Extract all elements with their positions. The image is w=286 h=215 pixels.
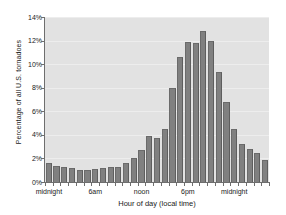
x-tick-mark: [261, 183, 262, 186]
y-tick-label: 10%: [2, 61, 42, 68]
x-tick-label: 6am: [88, 188, 102, 196]
x-tick-mark: [84, 183, 85, 186]
gridline: [45, 64, 269, 65]
bar: [53, 166, 59, 183]
bar: [92, 169, 98, 182]
y-tick-label: 0%: [2, 179, 42, 186]
bar: [146, 136, 152, 182]
x-tick-mark: [161, 183, 162, 186]
x-tick-mark: [169, 183, 170, 186]
x-tick-mark: [122, 183, 123, 186]
y-tick-label: 2%: [2, 155, 42, 162]
bar: [138, 150, 144, 182]
y-tick-mark: [41, 17, 45, 18]
y-tick-label: 12%: [2, 37, 42, 44]
y-tick-label: 14%: [2, 14, 42, 21]
bar: [247, 149, 253, 182]
x-tick-mark: [99, 183, 100, 186]
x-tick-label: 6pm: [181, 188, 195, 196]
x-tick-mark: [254, 183, 255, 186]
x-tick-mark: [153, 183, 154, 186]
x-axis-title: Hour of day (local time): [45, 199, 269, 208]
x-tick-mark: [207, 183, 208, 186]
bar: [108, 167, 114, 182]
bar: [115, 167, 121, 182]
x-tick-mark: [223, 183, 224, 186]
x-tick-mark: [176, 183, 177, 186]
gridline: [45, 41, 269, 42]
x-tick-mark: [68, 183, 69, 186]
x-tick-mark: [184, 183, 185, 186]
y-tick-label: 8%: [2, 84, 42, 91]
bar: [77, 170, 83, 182]
bar: [131, 158, 137, 182]
x-tick-mark: [91, 183, 92, 186]
bar: [61, 167, 67, 182]
y-tick-mark: [41, 111, 45, 112]
bar: [223, 102, 229, 182]
x-tick-mark: [192, 183, 193, 186]
x-tick-mark: [215, 183, 216, 186]
y-tick-mark: [41, 88, 45, 89]
x-tick-mark: [230, 183, 231, 186]
bar: [193, 43, 199, 182]
plot-area: [45, 17, 269, 182]
x-tick-mark: [246, 183, 247, 186]
bar: [208, 41, 214, 182]
bar: [216, 72, 222, 182]
bar: [123, 163, 129, 182]
bar: [262, 160, 268, 182]
x-tick-mark: [76, 183, 77, 186]
x-tick-mark: [60, 183, 61, 186]
bar: [84, 170, 90, 182]
y-tick-mark: [41, 158, 45, 159]
x-tick-mark: [107, 183, 108, 186]
x-tick-mark: [199, 183, 200, 186]
bar: [169, 88, 175, 182]
y-tick-label: 4%: [2, 131, 42, 138]
y-tick-mark: [41, 41, 45, 42]
bar: [162, 129, 168, 182]
x-tick-mark: [138, 183, 139, 186]
x-tick-mark: [53, 183, 54, 186]
bar: [231, 129, 237, 182]
x-tick-mark: [145, 183, 146, 186]
bar: [100, 168, 106, 182]
gridline: [45, 88, 269, 89]
bar: [177, 57, 183, 182]
gridline: [45, 17, 269, 18]
x-tick-label: midnight: [221, 188, 247, 196]
bar: [200, 31, 206, 182]
x-tick-mark: [238, 183, 239, 186]
bar: [69, 168, 75, 182]
y-tick-mark: [41, 64, 45, 65]
x-axis-line: [44, 182, 270, 183]
bar: [154, 138, 160, 182]
y-tick-mark: [41, 135, 45, 136]
y-tick-mark: [41, 182, 45, 183]
y-tick-label: 6%: [2, 108, 42, 115]
bar: [46, 163, 52, 182]
x-tick-label: midnight: [36, 188, 62, 196]
y-axis-ticks: 0%2%4%6%8%10%12%14%: [0, 0, 42, 215]
gridline: [45, 111, 269, 112]
x-tick-mark: [269, 183, 270, 186]
x-tick-mark: [130, 183, 131, 186]
x-tick-mark: [115, 183, 116, 186]
x-tick-label: noon: [134, 188, 150, 196]
tornado-hour-histogram: Percentage of all U.S. tornadoes 0%2%4%6…: [0, 0, 286, 215]
bar: [254, 153, 260, 182]
bar: [239, 144, 245, 182]
x-tick-mark: [45, 183, 46, 186]
bar: [185, 42, 191, 182]
